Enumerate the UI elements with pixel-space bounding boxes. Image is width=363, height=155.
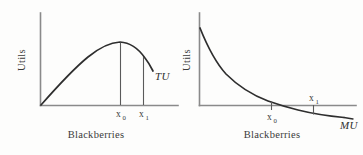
tu-tick-label-x1: x 1 (139, 109, 149, 121)
tu-tick-x0-base: x (116, 109, 121, 119)
mu-tick-x0-sub: 0 (274, 117, 278, 124)
tu-tick-x1-sub: 1 (146, 114, 149, 121)
tu-y-axis-label: Utils (16, 49, 27, 71)
figure-canvas: Utils Blackberries x 0 x 1 TU (0, 0, 363, 155)
mu-curve-label: MU (339, 119, 359, 131)
tu-tick-x0-sub: 0 (123, 114, 127, 121)
tu-tick-label-x0: x 0 (116, 109, 127, 121)
mu-tick-x1-base: x (309, 93, 314, 103)
panel-total-utility: Utils Blackberries x 0 x 1 TU (16, 13, 178, 140)
tu-tick-x1-base: x (139, 109, 144, 119)
mu-tick-label-x0: x 0 (267, 112, 278, 124)
mu-tick-x1-sub: 1 (316, 98, 319, 105)
panel-marginal-utility: Utils Blackberries x 0 x 1 MU (181, 13, 359, 140)
tu-curve (41, 42, 153, 105)
economics-figure: Utils Blackberries x 0 x 1 TU (0, 0, 363, 155)
mu-tick-label-x1: x 1 (309, 93, 319, 105)
tu-curve-label: TU (155, 70, 171, 82)
mu-x-axis-label: Blackberries (244, 129, 301, 140)
tu-x-axis-label: Blackberries (68, 129, 125, 140)
mu-y-axis-label: Utils (181, 49, 192, 71)
mu-tick-x0-base: x (267, 112, 272, 122)
